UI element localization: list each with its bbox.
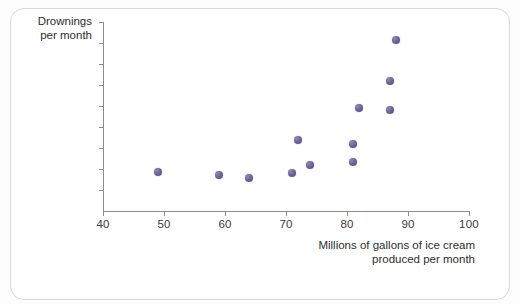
x-axis-tick-label: 80 — [327, 218, 367, 230]
y-axis-title-line-2: per month — [14, 28, 92, 42]
x-axis-tick — [286, 211, 287, 216]
data-point — [306, 161, 314, 169]
data-point — [349, 140, 357, 148]
y-axis-tick — [99, 64, 104, 65]
data-point — [245, 174, 253, 182]
data-point — [294, 136, 302, 144]
x-axis-tick — [103, 211, 104, 216]
data-point — [355, 104, 363, 112]
x-axis-tick — [164, 211, 165, 216]
y-axis-tick — [99, 169, 104, 170]
x-axis-title: Millions of gallons of ice cream produce… — [235, 238, 475, 266]
y-axis-tick — [99, 148, 104, 149]
x-axis-tick-label: 40 — [83, 218, 123, 230]
x-axis-tick — [408, 211, 409, 216]
y-axis-line — [103, 22, 104, 211]
y-axis-tick — [99, 85, 104, 86]
x-axis-title-line-1: Millions of gallons of ice cream — [235, 238, 475, 252]
y-axis-title-line-1: Drownings — [14, 14, 92, 28]
x-axis-tick-label: 60 — [205, 218, 245, 230]
x-axis-tick — [469, 211, 470, 216]
x-axis-tick-label: 70 — [266, 218, 306, 230]
y-axis-tick — [99, 190, 104, 191]
data-point — [386, 77, 394, 85]
x-axis-tick-label: 100 — [449, 218, 489, 230]
page: Drownings per month 10020030040050060070… — [0, 0, 520, 304]
data-point — [349, 158, 357, 166]
data-point — [288, 169, 296, 177]
data-point — [392, 36, 400, 44]
x-axis-tick-label: 50 — [144, 218, 184, 230]
scatter-plot-figure: Drownings per month 10020030040050060070… — [0, 0, 520, 304]
y-axis-tick — [99, 43, 104, 44]
data-point — [154, 168, 162, 176]
x-axis-tick-label: 90 — [388, 218, 428, 230]
x-axis-title-line-2: produced per month — [235, 252, 475, 266]
y-axis-tick — [99, 22, 104, 23]
x-axis-tick — [347, 211, 348, 216]
y-axis-tick — [99, 106, 104, 107]
data-point — [215, 171, 223, 179]
x-axis-tick — [225, 211, 226, 216]
y-axis-title: Drownings per month — [14, 14, 92, 42]
y-axis-tick — [99, 127, 104, 128]
plot-area: 100200300400500600700800900 405060708090… — [103, 22, 469, 211]
data-point — [386, 106, 394, 114]
